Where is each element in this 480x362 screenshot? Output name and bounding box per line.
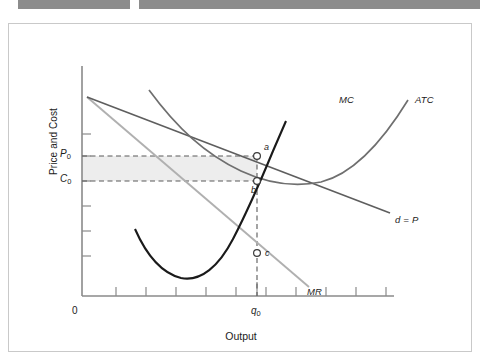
y-tick-marks [82,134,91,256]
economics-chart: Price and Cost Output 0 P0 C0 q0 MC ATC … [9,24,473,353]
p0-axis-label: P0 [60,148,71,161]
point-c-marker [254,250,261,257]
point-a-label: a [264,142,269,152]
c0-subscript: 0 [67,177,71,186]
point-c-label: c [265,248,270,258]
x-axis-title: Output [9,330,473,342]
mr-curve [87,97,309,287]
figure-frame: Price and Cost Output 0 P0 C0 q0 MC ATC … [8,23,472,352]
point-a-marker [254,153,261,160]
y-axis-title: Price and Cost [48,82,59,202]
mc-curve-label: MC [339,94,354,105]
mr-curve-label: MR [307,286,322,297]
demand-curve [87,97,390,213]
screenshot-page: Price and Cost Output 0 P0 C0 q0 MC ATC … [0,0,480,362]
point-b-marker [254,178,261,185]
demand-curve-label: d = P [395,214,418,225]
c0-axis-label: C0 [60,173,71,186]
scan-bar-right [139,0,480,9]
origin-label: 0 [72,305,78,316]
point-b-label: b [251,185,256,195]
x-tick-marks [116,282,386,296]
q0-axis-label: q0 [251,305,261,318]
chart-plot-svg [9,24,473,353]
scan-bar-left [18,0,130,9]
q0-subscript: 0 [257,309,261,318]
atc-curve-label: ATC [415,94,434,105]
p0-subscript: 0 [67,152,71,161]
p0-symbol: P [60,148,67,159]
